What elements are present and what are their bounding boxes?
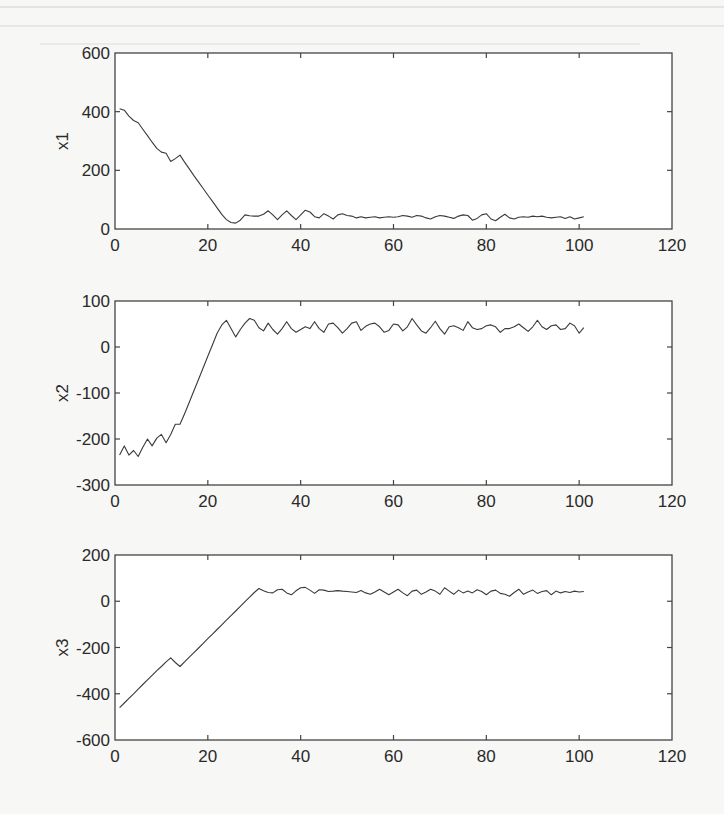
x-tick-label: 20 bbox=[198, 747, 217, 766]
y-tick-label: 600 bbox=[82, 44, 110, 63]
plot-area bbox=[115, 301, 672, 485]
y-tick-label: 0 bbox=[101, 220, 110, 239]
x-tick-label: 60 bbox=[384, 492, 403, 511]
bleed-through bbox=[0, 6, 724, 45]
y-tick-label: 200 bbox=[82, 161, 110, 180]
x-tick-label: 0 bbox=[110, 492, 119, 511]
plot-area bbox=[115, 53, 672, 229]
x-tick-label: 0 bbox=[110, 747, 119, 766]
x-tick-label: 60 bbox=[384, 747, 403, 766]
x-tick-label: 100 bbox=[565, 236, 593, 255]
x-tick-label: 20 bbox=[198, 236, 217, 255]
y-tick-label: 400 bbox=[82, 103, 110, 122]
x-tick-label: 60 bbox=[384, 236, 403, 255]
y-tick-label: -100 bbox=[76, 384, 110, 403]
x-tick-label: 80 bbox=[477, 747, 496, 766]
y-tick-label: -300 bbox=[76, 476, 110, 495]
y-axis-label: x3 bbox=[53, 639, 72, 657]
x-tick-label: 40 bbox=[291, 236, 310, 255]
x-tick-label: 100 bbox=[565, 492, 593, 511]
x-tick-label: 40 bbox=[291, 492, 310, 511]
y-tick-label: -200 bbox=[76, 639, 110, 658]
y-tick-label: 200 bbox=[82, 546, 110, 565]
y-tick-label: -200 bbox=[76, 430, 110, 449]
panel-x3: 020406080100120-600-400-2000200x3 bbox=[53, 546, 686, 766]
x-tick-label: 100 bbox=[565, 747, 593, 766]
y-tick-label: 100 bbox=[82, 292, 110, 311]
y-axis-label: x1 bbox=[53, 132, 72, 150]
x-tick-label: 80 bbox=[477, 236, 496, 255]
x-tick-label: 80 bbox=[477, 492, 496, 511]
y-tick-label: -600 bbox=[76, 731, 110, 750]
x-tick-label: 120 bbox=[658, 747, 686, 766]
y-axis-label: x2 bbox=[53, 384, 72, 402]
x-tick-label: 0 bbox=[110, 236, 119, 255]
y-tick-label: 0 bbox=[101, 592, 110, 611]
x-tick-label: 120 bbox=[658, 492, 686, 511]
x-tick-label: 20 bbox=[198, 492, 217, 511]
y-tick-label: 0 bbox=[101, 338, 110, 357]
x-tick-label: 120 bbox=[658, 236, 686, 255]
panel-x2: 020406080100120-300-200-1000100x2 bbox=[53, 292, 686, 511]
figure: 0204060801001200200400600x1 020406080100… bbox=[0, 0, 724, 814]
x-tick-label: 40 bbox=[291, 747, 310, 766]
panel-x1: 0204060801001200200400600x1 bbox=[53, 44, 686, 255]
y-tick-label: -400 bbox=[76, 685, 110, 704]
